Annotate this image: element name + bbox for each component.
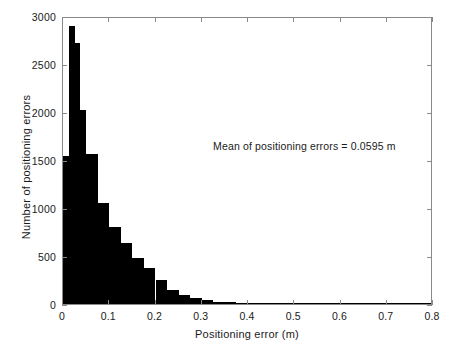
x-tick-mark (201, 300, 202, 305)
x-tick-mark (155, 300, 156, 305)
x-tick-label: 0.3 (193, 310, 208, 322)
mean-annotation: Mean of positioning errors = 0.0595 m (213, 140, 396, 152)
y-tick-label: 2000 (8, 107, 56, 119)
x-tick-label: 0.1 (101, 310, 116, 322)
y-axis-label: Number of positioning errors (20, 57, 32, 277)
x-tick-mark-top (340, 17, 341, 22)
x-tick-label: 0.6 (332, 310, 347, 322)
y-tick-mark (62, 209, 67, 210)
y-tick-mark-right (427, 305, 432, 306)
plot-area (62, 17, 432, 305)
x-tick-label: 0.7 (378, 310, 393, 322)
x-tick-mark (340, 300, 341, 305)
x-axis-label: Positioning error (m) (62, 328, 432, 340)
y-tick-mark (62, 17, 67, 18)
y-tick-label: 500 (8, 251, 56, 263)
histogram-figure: 00.10.20.30.40.50.60.70.8 05001000150020… (0, 0, 451, 352)
x-tick-mark-top (247, 17, 248, 22)
y-tick-mark (62, 65, 67, 66)
x-tick-mark-top (432, 17, 433, 22)
y-tick-mark-right (427, 161, 432, 162)
y-tick-label: 3000 (8, 11, 56, 23)
x-tick-mark (247, 300, 248, 305)
x-tick-mark (432, 300, 433, 305)
y-tick-mark-right (427, 257, 432, 258)
y-tick-label: 0 (8, 299, 56, 311)
x-tick-mark-top (201, 17, 202, 22)
x-tick-label: 0.2 (147, 310, 162, 322)
y-tick-mark (62, 161, 67, 162)
x-tick-label: 0.4 (239, 310, 254, 322)
x-tick-mark (386, 300, 387, 305)
x-tick-mark-top (386, 17, 387, 22)
x-tick-label: 0 (59, 310, 65, 322)
x-tick-mark (108, 300, 109, 305)
y-tick-mark-right (427, 209, 432, 210)
y-tick-mark-right (427, 113, 432, 114)
x-tick-label: 0.5 (286, 310, 301, 322)
y-tick-mark (62, 257, 67, 258)
x-tick-mark-top (155, 17, 156, 22)
y-tick-mark-right (427, 65, 432, 66)
y-tick-label: 1500 (8, 155, 56, 167)
y-tick-label: 1000 (8, 203, 56, 215)
y-tick-mark (62, 305, 67, 306)
y-tick-mark (62, 113, 67, 114)
x-tick-label: 0.8 (424, 310, 439, 322)
x-tick-mark-top (108, 17, 109, 22)
x-tick-mark-top (293, 17, 294, 22)
y-tick-label: 2500 (8, 59, 56, 71)
histogram-bars (63, 18, 431, 304)
y-tick-mark-right (427, 17, 432, 18)
x-tick-mark (293, 300, 294, 305)
